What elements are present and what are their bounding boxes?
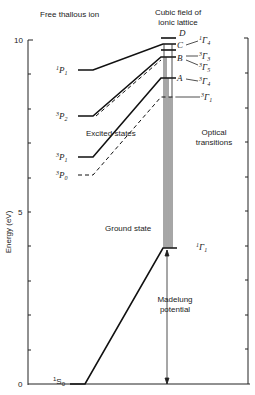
label-3G5: 3Γ5 (198, 62, 210, 73)
title-lattice-1: Cubic field of (155, 8, 202, 17)
tick-label-5: 5 (18, 208, 23, 217)
label-C: C (177, 40, 184, 50)
optical-transition-lines (164, 44, 172, 248)
label-1S0: 1S0 (53, 376, 66, 387)
label-3G1: 3Γ1 (200, 92, 212, 103)
right-axis (244, 38, 248, 384)
label-D: D (178, 28, 186, 38)
label-3G3: 3Γ3 (198, 51, 210, 62)
correlation-lines (70, 38, 177, 384)
tick-label-0: 0 (18, 380, 23, 389)
title-lattice-2: ionic lattice (158, 18, 198, 27)
label-B: B (177, 53, 183, 63)
label-1P1: 1P1 (56, 65, 68, 76)
energy-level-diagram: Free thallous ion Cubic field of ionic l… (0, 0, 255, 395)
label-excited-states: Excited states (86, 129, 136, 138)
label-3P1: 3P1 (55, 152, 68, 163)
label-optical-1: Optical (202, 128, 227, 137)
y-axis-label: Energy (eV) (4, 210, 13, 253)
label-3G4: 3Γ4 (198, 76, 210, 87)
label-madelung-1: Madelung (157, 295, 192, 304)
label-madelung-2: potential (160, 305, 190, 314)
label-3P0: 3P0 (55, 170, 68, 181)
label-3P2: 3P2 (55, 111, 68, 122)
label-ground-state: Ground state (105, 224, 152, 233)
label-1G4: 1Γ4 (199, 35, 210, 46)
label-1G1-ground: 1Γ1 (196, 242, 207, 253)
madelung-arrow (165, 250, 169, 384)
label-A: A (176, 73, 183, 83)
tick-label-10: 10 (14, 36, 23, 45)
title-free-ion: Free thallous ion (40, 10, 99, 19)
energy-axis (28, 40, 250, 385)
label-optical-2: transitions (196, 138, 232, 147)
